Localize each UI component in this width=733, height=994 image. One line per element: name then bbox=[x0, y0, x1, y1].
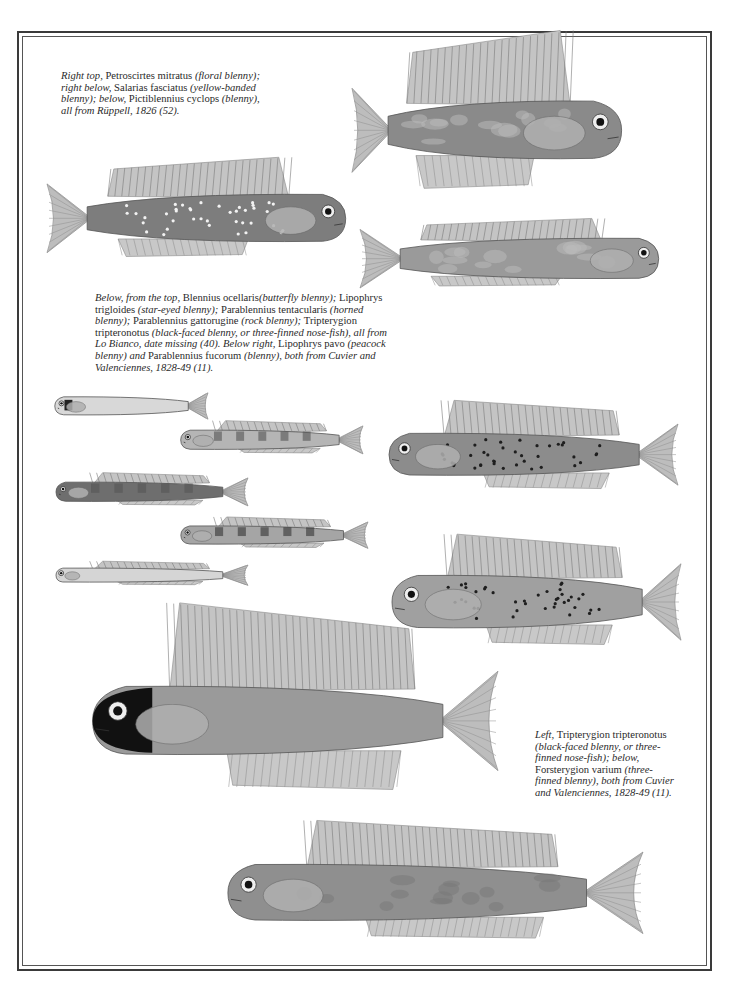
pectoral-fin bbox=[65, 572, 80, 580]
caption-species-name: Petroscirtes mitratus bbox=[105, 70, 194, 81]
body-spot bbox=[544, 607, 547, 610]
caption-italic-run: (rock blenny); bbox=[241, 315, 304, 326]
body-spot bbox=[598, 444, 601, 447]
fish-drawing bbox=[380, 385, 680, 505]
eye-pupil bbox=[245, 881, 253, 889]
fin-ray bbox=[289, 157, 292, 196]
body-spot bbox=[238, 206, 241, 209]
fish-group bbox=[47, 157, 346, 256]
body-spot bbox=[237, 232, 240, 235]
illustration-lipophrys-trigloides bbox=[175, 408, 365, 463]
body-spot bbox=[244, 209, 247, 212]
eye-pupil bbox=[60, 402, 62, 404]
body-mottle bbox=[450, 114, 468, 125]
fish-group bbox=[389, 400, 678, 488]
illustration-tripterygion-tripteronotus-large bbox=[80, 600, 500, 795]
body-band bbox=[215, 527, 223, 536]
mouth bbox=[184, 442, 186, 443]
fish-drawing bbox=[175, 408, 365, 463]
fin-ray bbox=[214, 517, 217, 527]
body-spot bbox=[473, 443, 476, 446]
mouth bbox=[59, 494, 61, 495]
pectoral-fin bbox=[192, 531, 211, 542]
body-spot bbox=[175, 209, 178, 212]
fish-group bbox=[352, 30, 622, 188]
body-spot bbox=[188, 207, 191, 210]
body-spot bbox=[560, 593, 563, 596]
caption-species-name: Parablennius gattorugine bbox=[133, 315, 241, 326]
body-spot bbox=[241, 221, 244, 224]
body-spot bbox=[560, 582, 563, 585]
anal-fin bbox=[486, 625, 612, 645]
caption-species-name: Salarias fasciatus bbox=[114, 82, 190, 93]
body-band bbox=[303, 431, 311, 440]
body-spot bbox=[548, 444, 551, 447]
body-spot bbox=[493, 462, 496, 465]
fish-group bbox=[360, 218, 659, 288]
body-spot bbox=[218, 205, 221, 208]
body-spot bbox=[250, 221, 253, 224]
mouth bbox=[58, 408, 59, 409]
body-mottle bbox=[479, 887, 494, 898]
body-mottle bbox=[444, 248, 465, 257]
body-spot bbox=[162, 233, 165, 236]
caption-species-name: Lipophrys pavo bbox=[278, 338, 347, 349]
body-band bbox=[91, 483, 99, 492]
caption-italic-run: Below, from the top, bbox=[95, 292, 183, 303]
body-spot bbox=[492, 591, 495, 594]
body-spot bbox=[266, 210, 269, 213]
body-spot bbox=[479, 464, 482, 467]
caption-italic-run: (black-faced blenny, or three-finned nos… bbox=[535, 741, 661, 764]
body-band bbox=[306, 527, 314, 536]
fin-ray bbox=[90, 473, 93, 483]
eye-pupil bbox=[408, 591, 415, 598]
anal-fin bbox=[483, 473, 609, 489]
body-spot bbox=[165, 212, 168, 215]
mouth bbox=[184, 537, 185, 538]
caption-species-name: Forsterygion varium bbox=[535, 764, 624, 775]
eye-pupil bbox=[62, 488, 65, 491]
body-spot bbox=[206, 219, 209, 222]
body-spot bbox=[588, 612, 591, 615]
pectoral-fin bbox=[193, 435, 214, 446]
body-spot bbox=[518, 439, 521, 442]
body-mottle bbox=[421, 119, 449, 130]
body-spot bbox=[501, 446, 504, 449]
body-spot bbox=[166, 228, 169, 231]
body-mottle bbox=[429, 250, 444, 264]
body-spot bbox=[181, 203, 184, 206]
fish-group bbox=[181, 421, 363, 454]
illustration-lipophrys-pavo bbox=[380, 385, 680, 505]
body-spot bbox=[484, 438, 487, 441]
body-spot bbox=[229, 211, 232, 214]
body-mottle bbox=[390, 875, 415, 885]
anal-fin bbox=[416, 156, 534, 189]
body-spot bbox=[581, 593, 584, 596]
caption-italic-run: Left, bbox=[535, 729, 557, 740]
body-spot bbox=[126, 212, 129, 215]
eye-pupil bbox=[60, 572, 62, 574]
fish-drawing bbox=[350, 28, 630, 193]
fish-group bbox=[93, 603, 498, 790]
fish-group bbox=[228, 820, 643, 938]
body-spot bbox=[523, 599, 526, 602]
body-mottle bbox=[565, 245, 577, 255]
body-band bbox=[114, 483, 122, 492]
caption-middle: Below, from the top, Blennius ocellaris(… bbox=[95, 292, 395, 373]
eye-pupil bbox=[596, 118, 604, 126]
body-band bbox=[258, 431, 266, 440]
fish-group bbox=[56, 473, 248, 506]
pectoral-fin bbox=[523, 116, 585, 150]
body-spot bbox=[484, 586, 487, 589]
body-mottle bbox=[443, 256, 468, 264]
body-band bbox=[236, 431, 244, 440]
anal-fin bbox=[365, 917, 543, 938]
fin-ray bbox=[444, 534, 447, 577]
body-spot bbox=[567, 599, 570, 602]
body-spot bbox=[244, 231, 247, 234]
illustration-tripterygion-tripteronotus-small bbox=[50, 552, 250, 592]
body-spot bbox=[486, 453, 489, 456]
body-spot bbox=[482, 451, 485, 454]
body-mottle bbox=[474, 262, 491, 269]
body-spot bbox=[520, 454, 523, 457]
